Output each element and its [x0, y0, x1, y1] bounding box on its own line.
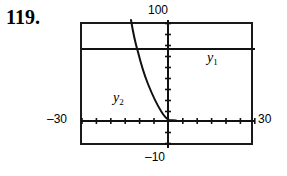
curve-label-y2-subscript: 2	[119, 97, 124, 107]
plot-area	[82, 24, 251, 143]
curve-label-y1-subscript: 1	[213, 57, 218, 67]
curve-label-y1: y1	[207, 50, 218, 66]
calculator-viewing-window	[80, 22, 253, 145]
figure-container: 119. 100 –30 30 –10	[0, 0, 287, 176]
problem-number: 119.	[6, 6, 40, 29]
window-xmin-label: –30	[47, 112, 67, 126]
window-ymax-label: 100	[148, 3, 168, 17]
plot-svg	[76, 18, 261, 153]
curve-label-y2: y2	[113, 90, 124, 106]
